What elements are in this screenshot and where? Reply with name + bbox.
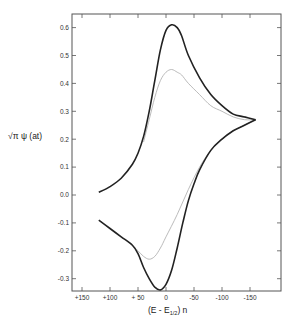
- series-reverse-sweep-thin: [132, 120, 255, 260]
- y-axis-title: √π ψ (at): [8, 131, 42, 141]
- series-reverse-sweep-bold: [99, 120, 256, 290]
- x-axis-title: (E - E1/2) n: [148, 305, 188, 316]
- y-tick-label: 0.3: [60, 108, 69, 115]
- x-axis: +150+100+ 500-50-100-150: [75, 14, 257, 301]
- y-tick-label: -0.2: [58, 247, 70, 254]
- y-tick-label: 0.6: [60, 24, 69, 31]
- y-tick-label: 0.5: [60, 52, 69, 59]
- y-tick-label: -0.3: [58, 275, 70, 282]
- plot-series: [99, 25, 256, 290]
- x-tick-label: 0: [164, 294, 168, 301]
- series-forward-sweep-bold: [99, 25, 256, 193]
- series-forward-sweep-thin: [144, 70, 256, 143]
- y-tick-label: 0.0: [60, 191, 69, 198]
- chart: 0.60.50.40.30.20.10.0-0.1-0.2-0.3 +150+1…: [0, 0, 298, 328]
- x-tick-label: -50: [189, 294, 199, 301]
- y-tick-label: 0.1: [60, 163, 69, 170]
- y-tick-label: -0.1: [58, 219, 70, 226]
- y-axis: 0.60.50.40.30.20.10.0-0.1-0.2-0.3: [58, 24, 281, 282]
- x-tick-label: -150: [243, 294, 256, 301]
- x-tick-label: +100: [103, 294, 118, 301]
- x-tick-label: -100: [215, 294, 228, 301]
- y-tick-label: 0.2: [60, 136, 69, 143]
- x-tick-label: + 50: [132, 294, 145, 301]
- x-tick-label: +150: [75, 294, 90, 301]
- y-tick-label: 0.4: [60, 80, 69, 87]
